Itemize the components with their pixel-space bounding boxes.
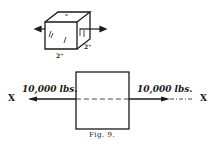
left-force-label: 10,000 lbs. [22,84,78,94]
right-axis-label: X [200,93,207,103]
left-axis-label: X [8,93,15,103]
cube-dimension-side: 2" [84,43,91,50]
figure-caption: Fig. 9. [89,131,115,139]
right-force-label: 10,000 lbs. [137,84,193,94]
figure-drawing [0,0,216,152]
cube-dimension-front: 2" [56,52,63,59]
block-square [76,72,129,129]
